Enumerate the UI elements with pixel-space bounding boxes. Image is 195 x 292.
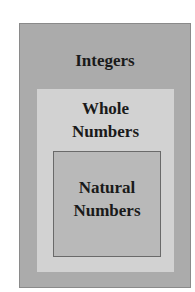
whole-numbers-label-line2: Numbers: [37, 120, 174, 143]
natural-numbers-label-line1: Natural: [54, 176, 160, 199]
whole-numbers-label: Whole Numbers: [37, 97, 174, 143]
integers-label: Integers: [20, 49, 190, 72]
natural-numbers-label: Natural Numbers: [54, 176, 160, 222]
natural-numbers-label-line2: Numbers: [54, 199, 160, 222]
natural-numbers-set-box: Natural Numbers: [53, 151, 161, 257]
whole-numbers-label-line1: Whole: [37, 97, 174, 120]
